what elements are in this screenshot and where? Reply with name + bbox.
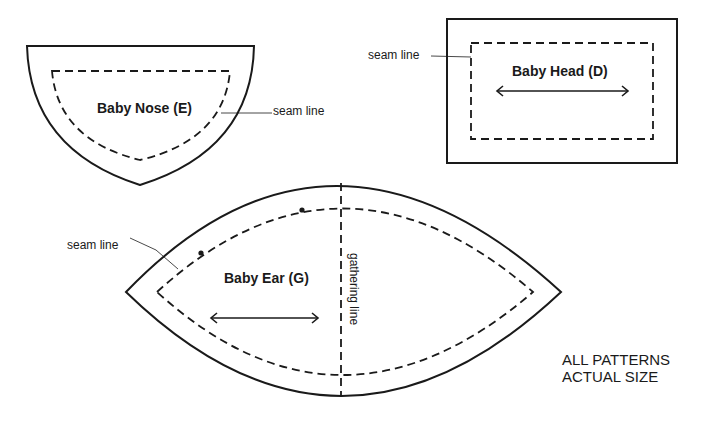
head-seam-label: seam line bbox=[368, 48, 419, 62]
size-note: ALL PATTERNS ACTUAL SIZE bbox=[562, 351, 670, 385]
head-title: Baby Head (D) bbox=[512, 63, 608, 79]
ear-marker-dot bbox=[198, 250, 203, 255]
nose-title: Baby Nose (E) bbox=[97, 100, 192, 116]
size-note-line1: ALL PATTERNS bbox=[562, 351, 670, 368]
ear-marker-dot bbox=[299, 207, 304, 212]
ear-title: Baby Ear (G) bbox=[224, 270, 309, 286]
size-note-line2: ACTUAL SIZE bbox=[562, 368, 670, 385]
ear-seam-label: seam line bbox=[67, 238, 118, 252]
ear-gathering-label: gathering line bbox=[347, 253, 361, 325]
ear-cut-outline bbox=[126, 186, 561, 396]
ear-seam-leader-tail bbox=[130, 238, 156, 250]
head-seam-leader bbox=[431, 56, 471, 57]
ear-seam-line bbox=[157, 209, 533, 376]
nose-seam-label: seam line bbox=[273, 104, 324, 118]
